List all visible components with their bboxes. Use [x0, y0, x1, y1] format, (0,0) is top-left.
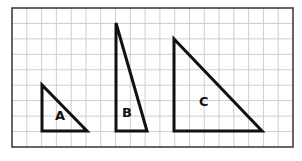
triangle-a-label: A: [55, 108, 65, 123]
triangle-a: A: [42, 85, 87, 131]
grid-diagram: A B C: [0, 0, 302, 161]
triangle-b-label: B: [122, 105, 132, 120]
grid-border: [12, 8, 293, 147]
triangle-c-label: C: [199, 94, 209, 109]
grid-lines: [12, 8, 293, 147]
